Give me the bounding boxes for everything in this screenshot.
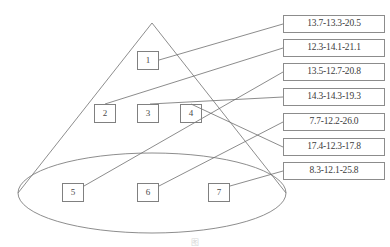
value-box-2[interactable]: 12.3-14.1-21.1 [283, 39, 385, 57]
connector-line-node-4-to-value-6 [191, 104, 283, 147]
figure-caption: 图 [0, 236, 390, 247]
connector-line-node-5-to-value-3 [84, 72, 283, 186]
connector-line-node-1-to-value-1 [159, 24, 283, 60]
node-box-6[interactable]: 6 [137, 183, 159, 202]
value-box-6[interactable]: 17.4-12.3-17.8 [283, 138, 385, 156]
node-box-2[interactable]: 2 [94, 104, 116, 123]
cone-right-edge [152, 23, 286, 193]
value-box-4[interactable]: 14.3-14.3-19.3 [283, 88, 385, 106]
node-box-5[interactable]: 5 [62, 183, 84, 202]
value-box-5[interactable]: 7.7-12.2-26.0 [283, 113, 385, 131]
node-box-3[interactable]: 3 [137, 104, 159, 123]
node-box-1[interactable]: 1 [137, 51, 159, 70]
cone-left-edge [18, 23, 152, 193]
value-box-1[interactable]: 13.7-13.3-20.5 [283, 15, 385, 33]
node-box-7[interactable]: 7 [208, 183, 230, 202]
figure-canvas: 1234567 13.7-13.3-20.512.3-14.1-21.113.5… [0, 0, 390, 247]
connector-line-node-3-to-value-4 [150, 97, 283, 104]
node-box-4[interactable]: 4 [180, 104, 202, 123]
value-box-3[interactable]: 13.5-12.7-20.8 [283, 63, 385, 81]
value-box-7[interactable]: 8.3-12.1-25.8 [283, 162, 385, 180]
connector-line-node-2-to-value-2 [105, 48, 283, 104]
